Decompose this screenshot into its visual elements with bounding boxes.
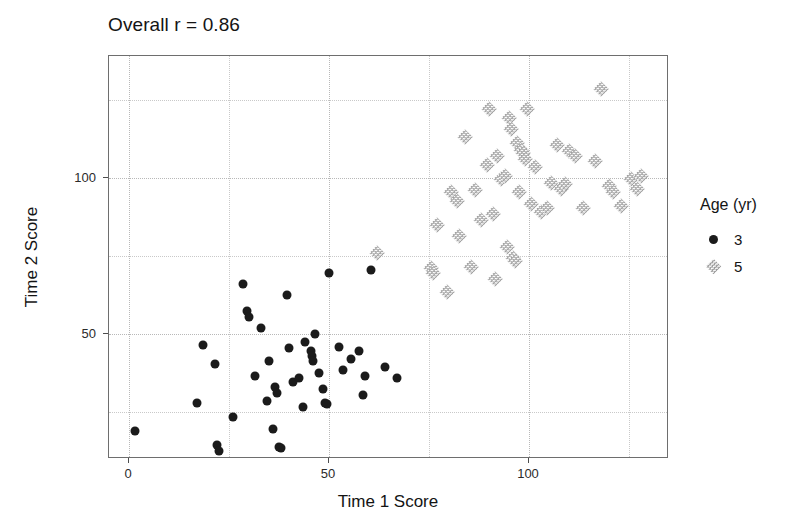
- data-point-age-3: [199, 340, 208, 349]
- data-point-age-3: [211, 359, 220, 368]
- y-axis-title: Time 2 Score: [22, 207, 42, 307]
- gridline-horizontal-minor: [109, 412, 667, 413]
- x-tick-mark: [528, 458, 529, 463]
- data-point-age-3: [319, 384, 328, 393]
- data-point-age-3: [359, 390, 368, 399]
- data-point-age-3: [323, 400, 332, 409]
- legend-item-label: 3: [734, 231, 742, 248]
- data-point-age-3: [339, 365, 348, 374]
- data-point-age-3: [367, 265, 376, 274]
- data-point-age-3: [315, 369, 324, 378]
- data-point-age-5: [587, 153, 603, 169]
- data-point-age-5: [457, 129, 473, 145]
- dotted-diamond-icon: [705, 259, 721, 275]
- data-point-age-5: [429, 217, 445, 233]
- data-point-age-5: [593, 81, 609, 97]
- data-point-age-3: [325, 269, 334, 278]
- legend-marker-icon: [700, 261, 726, 272]
- y-tick-mark: [103, 333, 108, 334]
- gridline-horizontal-major: [109, 178, 667, 179]
- data-point-age-3: [335, 342, 344, 351]
- x-axis-title: Time 1 Score: [338, 492, 438, 512]
- x-tick-label: 0: [124, 466, 131, 481]
- data-point-age-3: [257, 323, 266, 332]
- gridline-horizontal-major: [109, 334, 667, 335]
- legend-item-label: 5: [734, 258, 742, 275]
- legend: Age (yr) 35: [700, 196, 757, 280]
- data-point-age-3: [361, 372, 370, 381]
- data-point-age-3: [347, 355, 356, 364]
- data-point-age-3: [215, 447, 224, 456]
- y-tick-label: 50: [82, 326, 96, 341]
- data-point-age-3: [285, 344, 294, 353]
- data-point-age-3: [381, 362, 390, 371]
- data-point-age-3: [193, 398, 202, 407]
- data-point-age-5: [467, 183, 483, 199]
- data-point-age-3: [301, 337, 310, 346]
- data-point-age-3: [309, 356, 318, 365]
- gridline-horizontal-minor: [109, 100, 667, 101]
- data-point-age-3: [295, 373, 304, 382]
- data-point-age-5: [369, 245, 385, 261]
- data-point-age-5: [481, 101, 497, 117]
- data-point-age-3: [311, 330, 320, 339]
- gridline-horizontal-minor: [109, 256, 667, 257]
- data-point-age-5: [519, 101, 535, 117]
- data-point-age-3: [229, 412, 238, 421]
- x-tick-label: 50: [321, 466, 335, 481]
- y-tick-mark: [103, 177, 108, 178]
- data-point-age-3: [273, 389, 282, 398]
- x-tick-mark: [328, 458, 329, 463]
- data-point-age-5: [439, 284, 455, 300]
- data-point-age-3: [299, 403, 308, 412]
- x-tick-mark: [128, 458, 129, 463]
- data-point-age-5: [463, 259, 479, 275]
- data-point-age-3: [393, 373, 402, 382]
- data-point-age-3: [239, 280, 248, 289]
- x-tick-label: 100: [517, 466, 539, 481]
- chart-title: Overall r = 0.86: [108, 14, 240, 36]
- data-point-age-3: [277, 444, 286, 453]
- data-point-age-5: [575, 200, 591, 216]
- data-point-age-5: [613, 198, 629, 214]
- chart-root: Overall r = 0.86 05010050100 Time 1 Scor…: [0, 0, 810, 532]
- data-point-age-3: [283, 290, 292, 299]
- data-point-age-5: [487, 272, 503, 288]
- y-tick-label: 100: [74, 169, 96, 184]
- legend-marker-icon: [700, 235, 726, 244]
- legend-entries: 35: [700, 226, 757, 280]
- data-point-age-5: [511, 184, 527, 200]
- legend-item-age-3[interactable]: 3: [700, 226, 757, 253]
- data-point-age-3: [251, 372, 260, 381]
- data-point-age-5: [451, 228, 467, 244]
- data-point-age-3: [265, 356, 274, 365]
- filled-circle-icon: [709, 235, 718, 244]
- plot-panel: [108, 55, 668, 458]
- data-point-age-3: [269, 425, 278, 434]
- legend-item-age-5[interactable]: 5: [700, 253, 757, 280]
- legend-title: Age (yr): [700, 196, 757, 214]
- data-point-age-3: [355, 347, 364, 356]
- data-point-age-3: [131, 426, 140, 435]
- data-point-age-3: [263, 397, 272, 406]
- data-point-age-3: [245, 312, 254, 321]
